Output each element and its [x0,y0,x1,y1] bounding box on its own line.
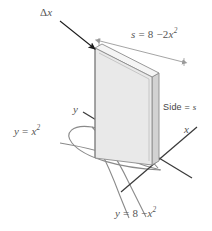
label-side-equals-s: Side = s [163,103,196,112]
label-delta-x: Δx [40,7,52,18]
s-constant: 8 [148,28,154,40]
s-lhs: s [131,28,135,40]
curve-upper-power: 2 [153,206,157,214]
label-x-axis: x [184,124,189,135]
s-power: 2 [174,27,178,35]
label-y-axis: y [73,104,78,115]
label-curve-upper: y = 8 −x2 [115,208,156,219]
curve-lower-equals: = [22,125,28,137]
figure-canvas: Δx s = 8 −2x2 Side = s y x y = x2 y = 8 … [0,0,212,231]
curve-lower-lhs: y [14,125,19,137]
side-variable: s [193,102,197,112]
delta-x-leader-arrow [60,21,95,49]
delta-variable: x [47,6,52,18]
cross-section-slab [95,44,159,165]
side-word: Side [163,102,182,112]
label-side-expression: s = 8 −2x2 [131,29,177,40]
curve-upper-equals: = [123,207,129,219]
diagram-svg [0,0,212,231]
slab-side-face [152,73,159,165]
curve-lower-power: 2 [37,124,41,132]
s-equals: = [138,28,144,40]
label-curve-lower: y = x2 [14,126,40,137]
side-equals: = [185,102,190,112]
curve-upper-lhs: y [115,207,120,219]
curve-upper-const: 8 [132,207,138,219]
